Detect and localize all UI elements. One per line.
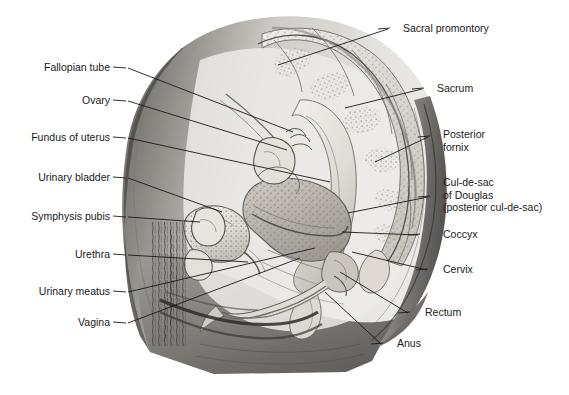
dash-urinary-meatus (113, 291, 126, 292)
label-cul-de-sac: Cul-de-sac of Douglas (posterior cul-de-… (443, 176, 542, 214)
label-fundus-of-uterus: Fundus of uterus (12, 131, 110, 144)
label-symphysis-pubis: Symphysis pubis (22, 210, 110, 223)
dash-ovary (113, 100, 126, 101)
label-ovary: Ovary (55, 94, 110, 107)
label-rectum: Rectum (425, 306, 461, 319)
label-coccyx: Coccyx (443, 228, 477, 241)
label-sacral-promontory: Sacral promontory (403, 22, 489, 35)
dash-fallopian-tube (113, 67, 126, 68)
dash-urethra (113, 254, 126, 255)
label-urinary-meatus: Urinary meatus (35, 285, 110, 298)
label-urinary-bladder: Urinary bladder (28, 171, 110, 184)
label-fallopian-tube: Fallopian tube (22, 61, 110, 74)
label-posterior-fornix: Posterior fornix (443, 128, 485, 153)
label-vagina: Vagina (62, 316, 110, 329)
label-urethra: Urethra (62, 248, 110, 261)
illustration-page: Fallopian tubeOvaryFundus of uterusUrina… (0, 0, 569, 395)
dash-fundus-of-uterus (113, 137, 126, 138)
dash-sacral-promontory (378, 28, 390, 29)
label-sacrum: Sacrum (437, 82, 473, 95)
label-cervix: Cervix (443, 263, 473, 276)
dash-vagina (113, 322, 126, 323)
label-anus: Anus (397, 337, 421, 350)
